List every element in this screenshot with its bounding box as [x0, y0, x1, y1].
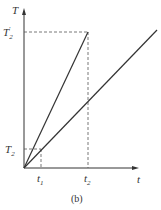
y-axis-label: T	[12, 4, 19, 16]
t1-label: t1	[37, 172, 44, 187]
figure-caption: (b)	[71, 193, 83, 205]
shallow-line	[24, 30, 157, 168]
steep-line	[24, 32, 88, 168]
x-axis-arrow-icon	[132, 166, 139, 170]
T2-prime-label: T2′	[3, 25, 13, 41]
x-axis-label: t	[137, 173, 141, 185]
y-axis-arrow-icon	[22, 8, 26, 15]
diagram: T t T2′ T2 t1 t2 (b)	[0, 0, 161, 210]
t2-label: t2	[84, 172, 91, 187]
T2-label: T2	[5, 143, 15, 158]
